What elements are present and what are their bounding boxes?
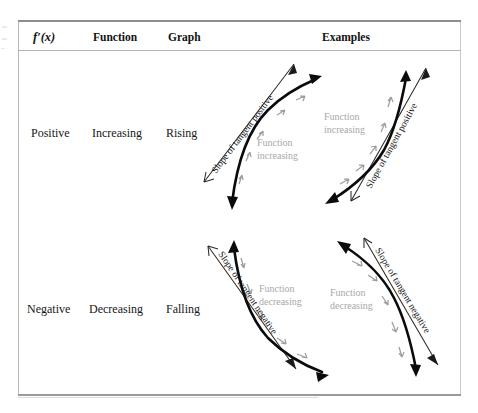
curve-arrowhead-bottom [410,364,421,377]
column-header-examples: Examples [322,31,370,43]
function-annotation-line-2: increasing [257,150,298,161]
row-1-graph-value: Rising [166,126,197,141]
function-annotation-line-2: increasing [324,124,365,135]
function-curve [234,248,322,372]
scan-artifact [1,48,5,49]
curve-arrowhead-bottom [227,196,238,210]
row-1-function-value: Increasing [92,126,142,141]
function-annotation-line-1: Function [324,111,360,122]
example-diagram-top-left: Slope of tangent positive Function incre… [198,58,328,218]
row-2-graph-value: Falling [166,302,200,317]
function-annotation-line-2: decreasing [330,300,373,311]
function-annotation-line-2: decreasing [259,296,302,307]
function-annotation-line-1: Function [330,287,366,298]
tangent-label: Slope of tangent positive [209,92,275,175]
table-bottom-rule-shadow [18,397,318,398]
curve-arrowhead-top [228,240,239,253]
row-1-derivative-value: Positive [31,126,70,141]
tangent-arrowhead-lower [427,354,438,365]
figure-table-derivative-sign: f′(x) Function Graph Examples Positive I… [0,0,478,413]
table-header-rule [18,50,461,51]
function-annotation-line-1: Function [257,137,293,148]
row-2-derivative-value: Negative [27,302,70,317]
curve-arrowhead-top [400,70,411,82]
scan-artifact [2,38,7,40]
curve-arrowhead-bottom [325,192,339,204]
scan-artifact [2,26,7,28]
tangent-line [364,238,438,365]
function-annotation-line-1: Function [259,283,295,294]
tangent-label: Slope of tangent positive [363,101,419,190]
curve-arrowhead-top [337,241,351,254]
example-diagram-bottom-right: Slope of tangent negative Function decre… [326,228,462,393]
column-header-derivative: f′(x) [33,30,55,45]
column-header-graph: Graph [168,31,201,43]
example-diagram-bottom-left: Slope of tangent negative Function decre… [196,228,336,393]
example-diagram-top-right: Slope of tangent positive Function incre… [318,58,460,218]
row-2-function-value: Decreasing [89,302,143,317]
column-header-function: Function [93,31,137,43]
table-bottom-rule [18,394,461,396]
